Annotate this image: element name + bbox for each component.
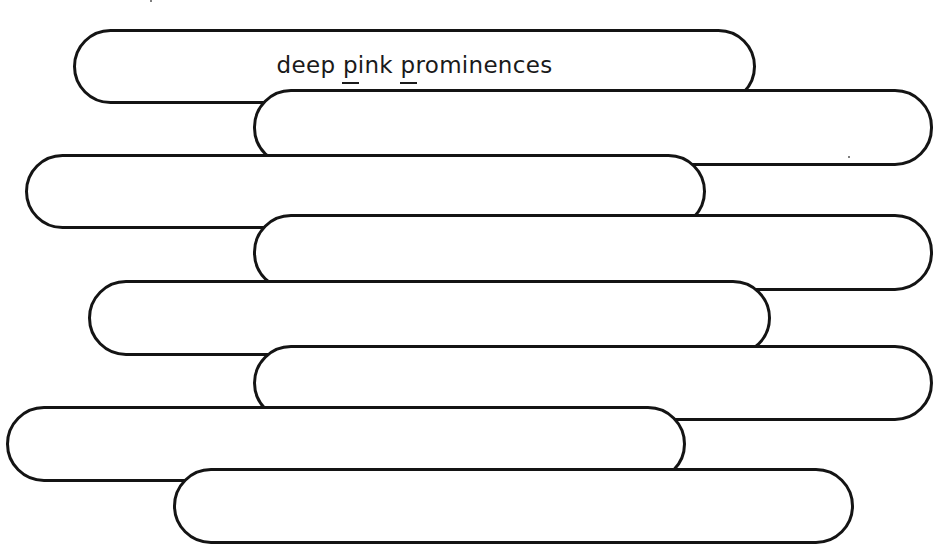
underline-mark — [400, 82, 417, 84]
prompt-text-before: deep — [277, 52, 343, 78]
scan-speck — [848, 156, 850, 158]
writing-line-pill-8[interactable] — [173, 468, 854, 544]
underlined-letter-1: p — [343, 52, 358, 78]
prompt-text-middle: ink — [358, 52, 401, 78]
writing-worksheet: deep p ink p rominences — [0, 0, 942, 552]
scan-speck — [150, 0, 152, 2]
underline-mark — [342, 82, 359, 84]
underlined-letter-2: p — [401, 52, 416, 78]
prompt-text-after: rominences — [416, 52, 553, 78]
